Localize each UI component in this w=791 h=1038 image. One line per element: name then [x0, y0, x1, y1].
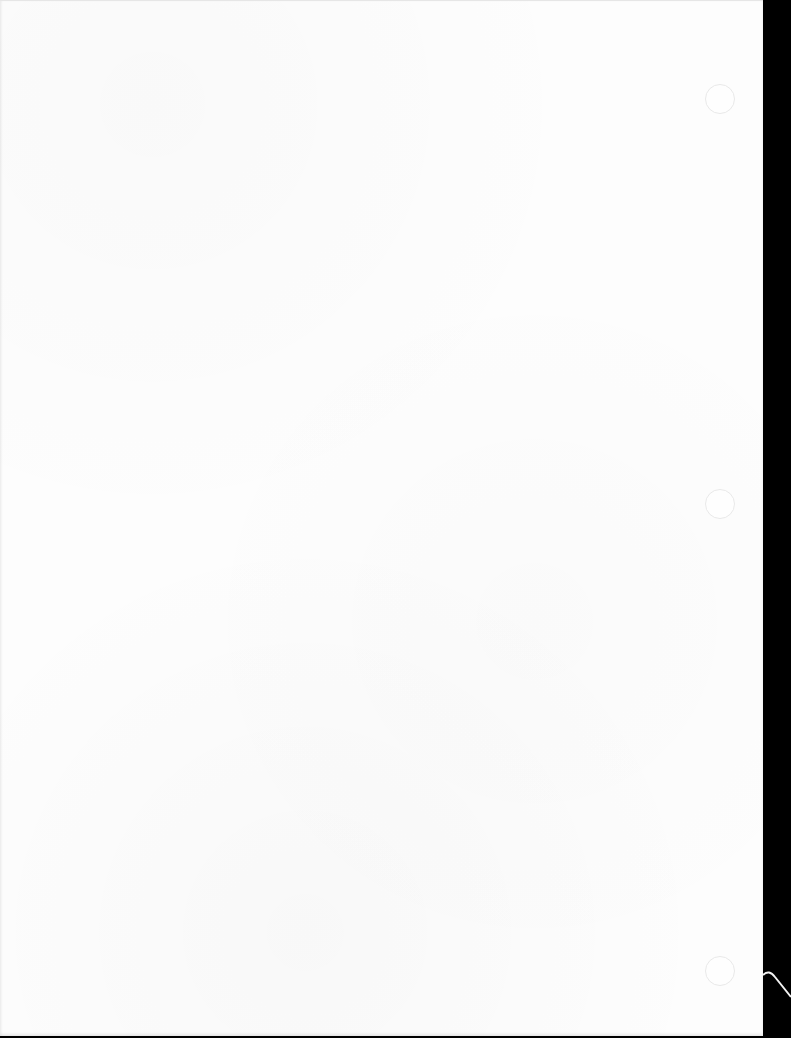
curled-page-corner [763, 955, 791, 1038]
blank-paper-sheet [0, 0, 763, 1036]
page-text-content [60, 61, 673, 976]
punch-hole-middle [705, 489, 735, 519]
scanner-background-strip [763, 0, 791, 1038]
punch-hole-top [705, 84, 735, 114]
punch-hole-bottom [705, 956, 735, 986]
scanned-page [0, 0, 791, 1038]
